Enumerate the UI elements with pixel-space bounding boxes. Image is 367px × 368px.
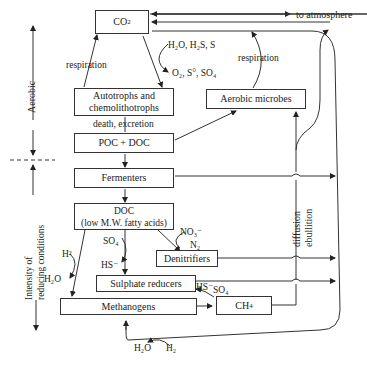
denitrifiers-box: Denitrifiers: [156, 250, 218, 267]
autotrophs-label: Autotrophs and: [93, 90, 155, 102]
ch4-label: CH: [235, 300, 249, 312]
death-excretion-label: death, excretion: [93, 119, 154, 130]
h2-left-label: H²: [62, 249, 72, 260]
aerobic-microbes-box: Aerobic microbes: [206, 89, 306, 109]
ebullition-label: ebullition: [303, 209, 314, 247]
aerobic-axis-label: Aerobic: [26, 81, 37, 113]
methanogens-box: Methanogens: [60, 298, 197, 315]
respiration-left-label: respiration: [66, 60, 107, 71]
co2-box: CO2: [95, 10, 149, 34]
reducing-axis-label-2: reducing conditions: [36, 225, 47, 300]
sulphate-reducers-box: Sulphate reducers: [96, 275, 196, 292]
reducing-axis-label-1: Intensity of: [24, 256, 35, 300]
ch4-box: CH4: [216, 296, 272, 315]
hs-right-label: HS⁻: [196, 282, 213, 293]
respiration-right-label: respiration: [238, 53, 279, 64]
co2-label: CO: [113, 16, 127, 28]
o2-s-so4-label: O₂, S°, SO₄: [172, 68, 216, 79]
poc-doc-box: POC + DOC: [74, 133, 174, 153]
to-atmosphere-label: to atmosphere: [296, 9, 352, 20]
h2o-left-label: H₂O: [44, 274, 61, 285]
autotrophs-box: Autotrophs and chemolithotrophs: [74, 88, 174, 116]
chemolithotrophs-label: chemolithotrophs: [89, 102, 159, 114]
h2o-h2s-s-label: H₂O, H₂S, S: [168, 40, 215, 51]
hs-left-label: HS⁻: [101, 260, 118, 271]
h2o-bottom-label: H₂O: [134, 343, 151, 354]
no3-label: NO₃⁻: [180, 227, 202, 238]
h2-bottom-label: H₂: [166, 343, 176, 354]
diffusion-label: diffusion: [291, 211, 302, 247]
so4-left-label: SO₄: [103, 236, 118, 247]
fermenters-box: Fermenters: [74, 168, 174, 188]
so4-right-label: SO₄: [213, 285, 228, 296]
doc-sublabel: (low M.W. fatty acids): [81, 217, 167, 229]
doc-box: DOC (low M.W. fatty acids): [74, 203, 174, 230]
n2-label: N₂: [190, 240, 200, 251]
doc-label: DOC: [114, 205, 134, 217]
